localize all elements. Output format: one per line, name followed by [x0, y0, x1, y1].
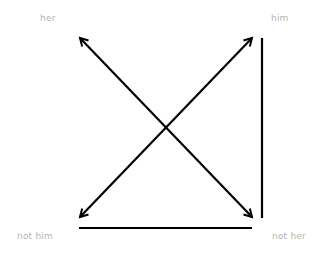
semiotic-square-diagram [0, 0, 325, 259]
